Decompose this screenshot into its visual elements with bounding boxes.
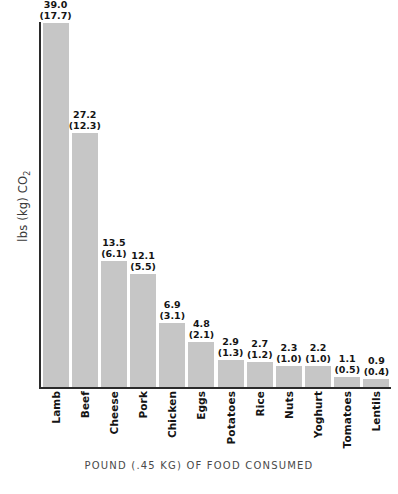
bar-lamb bbox=[43, 23, 69, 387]
x-axis-tick-label: Eggs bbox=[195, 391, 207, 420]
x-axis-tick-lentils: Lentils bbox=[363, 391, 389, 451]
bar-chicken bbox=[159, 323, 185, 387]
bar-value-lbs: 2.2 bbox=[305, 342, 331, 353]
x-axis-tick-eggs: Eggs bbox=[188, 391, 214, 451]
x-axis-tick-lamb: Lamb bbox=[43, 391, 69, 451]
bar-value-label: 2.2(1.0) bbox=[305, 342, 331, 364]
bar-group: 2.2(1.0) bbox=[305, 22, 331, 387]
x-axis-tick-nuts: Nuts bbox=[276, 391, 302, 451]
bar-value-kg: (1.2) bbox=[247, 349, 273, 360]
bar-value-kg: (0.4) bbox=[364, 366, 390, 377]
x-axis-tick-pork: Pork bbox=[130, 391, 156, 451]
x-axis-title: POUND (.45 KG) OF FOOD CONSUMED bbox=[0, 460, 398, 471]
bar-pork bbox=[130, 274, 156, 387]
bar-value-label: 12.1(5.5) bbox=[130, 250, 156, 272]
x-axis-tick-label: Chicken bbox=[166, 391, 178, 438]
bar-value-kg: (3.1) bbox=[159, 310, 185, 321]
x-axis-tick-chicken: Chicken bbox=[159, 391, 185, 451]
plot-area: 39.0(17.7)27.2(12.3)13.5(6.1)12.1(5.5)6.… bbox=[41, 22, 391, 387]
bar-value-label: 13.5(6.1) bbox=[101, 237, 127, 259]
bar-chart: lbs (kg) CO2 39.0(17.7)27.2(12.3)13.5(6.… bbox=[0, 0, 398, 494]
bar-potatoes bbox=[218, 360, 244, 387]
y-axis-title: lbs (kg) CO2 bbox=[16, 136, 36, 276]
bar-value-lbs: 2.7 bbox=[247, 338, 273, 349]
x-axis-tick-label: Tomatoes bbox=[341, 391, 353, 448]
bar-tomatoes bbox=[334, 377, 360, 387]
x-axis-tick-label: Yoghurt bbox=[312, 391, 324, 438]
bar-value-kg: (1.0) bbox=[305, 353, 331, 364]
x-axis-tick-labels: LambBeefCheesePorkChickenEggsPotatoesRic… bbox=[41, 391, 391, 451]
bar-value-label: 2.7(1.2) bbox=[247, 338, 273, 360]
x-axis-tick-cheese: Cheese bbox=[101, 391, 127, 451]
bar-yoghurt bbox=[305, 366, 331, 387]
bar-group: 0.9(0.4) bbox=[363, 22, 389, 387]
bar-value-lbs: 13.5 bbox=[101, 237, 127, 248]
bar-value-label: 39.0(17.7) bbox=[40, 0, 72, 21]
bar-group: 12.1(5.5) bbox=[130, 22, 156, 387]
x-axis-tick-label: Beef bbox=[79, 391, 91, 418]
x-axis-tick-label: Lentils bbox=[370, 391, 382, 431]
bar-group: 1.1(0.5) bbox=[334, 22, 360, 387]
bar-value-lbs: 12.1 bbox=[130, 250, 156, 261]
x-axis-tick-label: Lamb bbox=[50, 391, 62, 424]
bar-beef bbox=[72, 133, 98, 387]
y-axis-title-text: lbs (kg) CO bbox=[16, 176, 30, 242]
bar-value-label: 6.9(3.1) bbox=[159, 299, 185, 321]
bar-value-label: 4.8(2.1) bbox=[189, 318, 215, 340]
x-axis-line bbox=[39, 387, 391, 389]
bar-cheese bbox=[101, 261, 127, 387]
bar-nuts bbox=[276, 366, 302, 387]
x-axis-tick-label: Potatoes bbox=[225, 391, 237, 444]
bar-group: 39.0(17.7) bbox=[43, 22, 69, 387]
bar-value-kg: (5.5) bbox=[130, 261, 156, 272]
bar-value-label: 2.3(1.0) bbox=[276, 342, 302, 364]
bar-group: 27.2(12.3) bbox=[72, 22, 98, 387]
bar-value-kg: (1.0) bbox=[276, 353, 302, 364]
x-axis-tick-rice: Rice bbox=[247, 391, 273, 451]
bar-value-kg: (2.1) bbox=[189, 329, 215, 340]
bar-value-lbs: 1.1 bbox=[334, 353, 360, 364]
bar-group: 2.9(1.3) bbox=[218, 22, 244, 387]
bar-value-lbs: 0.9 bbox=[364, 355, 390, 366]
bar-value-kg: (17.7) bbox=[40, 10, 72, 21]
y-axis-title-subscript: 2 bbox=[23, 170, 32, 175]
bar-group: 2.3(1.0) bbox=[276, 22, 302, 387]
bar-group: 2.7(1.2) bbox=[247, 22, 273, 387]
bar-eggs bbox=[188, 342, 214, 387]
bar-value-lbs: 4.8 bbox=[189, 318, 215, 329]
bar-value-kg: (0.5) bbox=[334, 364, 360, 375]
x-axis-tick-label: Rice bbox=[254, 391, 266, 416]
x-axis-tick-label: Pork bbox=[137, 391, 149, 418]
x-axis-tick-yoghurt: Yoghurt bbox=[305, 391, 331, 451]
bar-lentils bbox=[363, 379, 389, 387]
x-axis-tick-beef: Beef bbox=[72, 391, 98, 451]
x-axis-tick-label: Cheese bbox=[108, 391, 120, 434]
bar-value-label: 0.9(0.4) bbox=[364, 355, 390, 377]
bar-value-kg: (6.1) bbox=[101, 248, 127, 259]
x-axis-tick-label: Nuts bbox=[283, 391, 295, 419]
bar-value-lbs: 39.0 bbox=[40, 0, 72, 10]
bar-value-lbs: 2.9 bbox=[218, 336, 244, 347]
bar-rice bbox=[247, 362, 273, 387]
bar-value-label: 1.1(0.5) bbox=[334, 353, 360, 375]
bar-value-lbs: 6.9 bbox=[159, 299, 185, 310]
bar-value-kg: (1.3) bbox=[218, 347, 244, 358]
bar-value-lbs: 2.3 bbox=[276, 342, 302, 353]
bar-group: 4.8(2.1) bbox=[188, 22, 214, 387]
bar-group: 6.9(3.1) bbox=[159, 22, 185, 387]
bar-value-lbs: 27.2 bbox=[69, 109, 101, 120]
x-axis-tick-tomatoes: Tomatoes bbox=[334, 391, 360, 451]
x-axis-tick-potatoes: Potatoes bbox=[218, 391, 244, 451]
bar-value-label: 27.2(12.3) bbox=[69, 109, 101, 131]
bar-group: 13.5(6.1) bbox=[101, 22, 127, 387]
bar-value-kg: (12.3) bbox=[69, 120, 101, 131]
bar-value-label: 2.9(1.3) bbox=[218, 336, 244, 358]
